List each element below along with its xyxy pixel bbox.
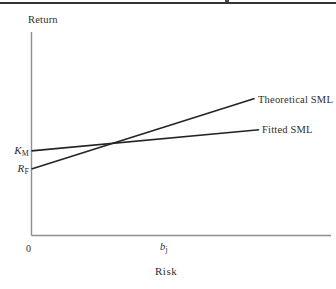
bj-tick-subscript: j [165,245,167,254]
sml-chart-canvas [0,0,336,289]
km-tick-subscript: M [22,149,29,158]
fitted-sml-label: Fitted SML [262,124,313,136]
rf-tick-subscript: F [24,167,29,176]
rf-tick-label: RF [6,162,29,174]
origin-tick-label: 0 [26,243,31,254]
km-tick-label: KM [6,144,29,156]
bj-tick-label: bj [160,241,168,253]
km-tick-base: K [14,144,22,156]
sml-figure: Return Theoretical SML Fitted SML KM RF … [0,0,336,289]
theoretical-sml-label: Theoretical SML [258,94,333,106]
x-axis-label: Risk [155,265,177,277]
